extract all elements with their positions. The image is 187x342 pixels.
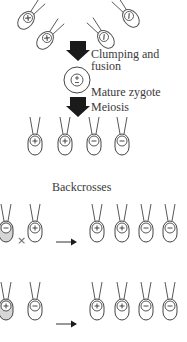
backcross-2-parent (28, 282, 42, 320)
arrow-down-icon (66, 41, 90, 61)
backcross-1-product (90, 204, 104, 242)
gamete-plus-b (109, 0, 142, 30)
arrow-down-icon (66, 97, 90, 117)
arrow-right-icon (56, 321, 77, 328)
backcross-2-product (115, 282, 129, 320)
cross-symbol: × (17, 235, 26, 247)
label-backcrosses: Backcrosses (52, 181, 111, 193)
arrow-right-icon (56, 239, 77, 246)
gamete-minus-a (14, 0, 47, 32)
backcross-2-product (139, 282, 153, 320)
backcross-1-product (115, 204, 129, 242)
backcross-1-parent-shaded (0, 204, 13, 242)
backcross-1-product (163, 204, 177, 242)
backcross-1-parent (28, 204, 42, 242)
product-minus-1 (87, 117, 101, 155)
backcross-1-product (139, 204, 153, 242)
label-meiosis: Meiosis (91, 101, 129, 113)
backcross-2-parent-shaded (0, 282, 13, 320)
product-plus-1 (28, 117, 42, 155)
backcross-2-product (90, 282, 104, 320)
product-plus-2 (58, 117, 72, 155)
backcross-2-product (163, 282, 177, 320)
product-minus-2 (115, 117, 129, 155)
gamete-minus-b (33, 17, 66, 53)
label-fusion: fusion (91, 60, 121, 72)
mature-zygote (64, 67, 90, 93)
label-mature-zygote: Mature zygote (91, 86, 161, 98)
